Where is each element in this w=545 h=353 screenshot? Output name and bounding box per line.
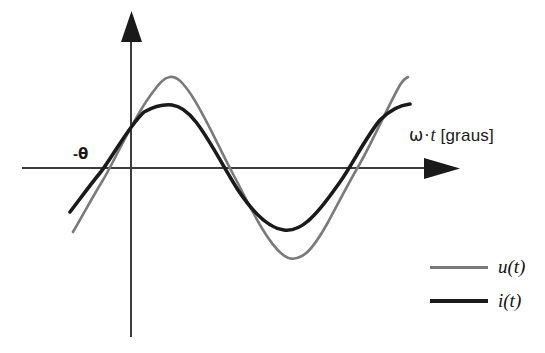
omega-symbol: ω <box>409 125 423 145</box>
theta-symbol: θ <box>78 145 88 163</box>
legend-swatch-i <box>430 299 488 303</box>
x-axis-label: ω·t [graus] <box>409 126 494 144</box>
time-variable-symbol: t <box>430 125 435 145</box>
x-axis-unit: [graus] <box>441 126 494 145</box>
y-axis-arrow-icon <box>121 11 142 42</box>
legend-label-i: i(t) <box>498 290 521 312</box>
legend-item-i: i(t) <box>424 290 542 324</box>
phase-angle-label: -θ <box>73 146 88 162</box>
legend-swatch-u <box>430 266 488 269</box>
legend: u(t) i(t) <box>424 256 542 324</box>
legend-label-u: u(t) <box>498 256 525 278</box>
x-axis-arrow-icon <box>424 158 460 179</box>
waveform-figure: ω·t [graus] -θ u(t) i(t) <box>0 0 545 353</box>
legend-item-u: u(t) <box>424 256 542 290</box>
